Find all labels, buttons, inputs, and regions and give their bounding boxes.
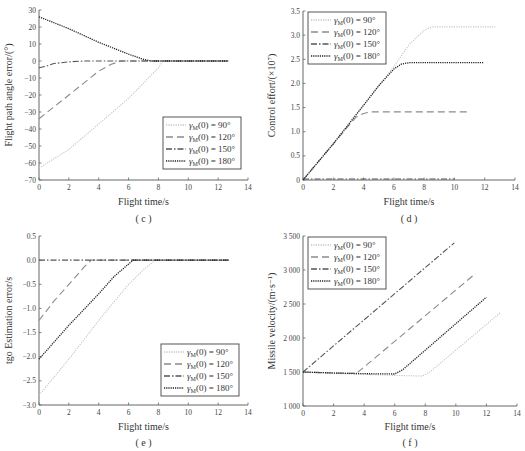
x-axis-title: Flight time/s: [384, 196, 435, 207]
y-tick-label: −2.0: [22, 352, 36, 361]
subfigure-caption: ( e ): [135, 437, 151, 449]
y-tick-label: 0: [32, 57, 36, 66]
x-tick-label: 12: [214, 183, 222, 192]
figure-canvas: 024681012143020100−10−20−30−40−50−60−70F…: [0, 0, 525, 451]
x-tick-label: 12: [483, 409, 491, 418]
chart-e: 024681012140.50.0−0.5−1.0−1.5−2.0−2.5−3.…: [3, 232, 252, 449]
x-tick-label: 8: [157, 408, 161, 417]
series-line: [39, 61, 229, 68]
y-tick-label: 3.0: [291, 31, 301, 40]
y-tick-label: 1.0: [291, 127, 301, 136]
x-tick-label: 12: [214, 408, 222, 417]
x-tick-label: 6: [127, 408, 131, 417]
x-tick-label: 12: [481, 183, 489, 192]
y-tick-label: 1.5: [291, 103, 301, 112]
y-tick-label: −0.5: [22, 280, 36, 289]
y-tick-label: −3.0: [22, 401, 36, 410]
y-tick-label: −1.5: [22, 328, 36, 337]
x-axis-title: Flight time/s: [118, 196, 169, 207]
x-tick-label: 14: [513, 409, 521, 418]
y-tick-label: 30: [29, 6, 37, 15]
x-tick-label: 8: [423, 409, 427, 418]
y-tick-label: 0: [296, 176, 300, 185]
subfigure-caption: ( f ): [403, 437, 418, 449]
y-tick-label: 2 000: [283, 334, 300, 343]
x-tick-label: 4: [362, 183, 366, 192]
x-tick-label: 10: [185, 183, 193, 192]
y-tick-label: 3 500: [283, 232, 300, 241]
y-tick-label: 1 500: [283, 368, 300, 377]
x-tick-label: 0: [37, 408, 41, 417]
x-tick-label: 0: [37, 183, 41, 192]
series-line: [39, 61, 229, 119]
x-tick-label: 14: [244, 183, 252, 192]
y-tick-label: −60: [24, 159, 36, 168]
y-tick-label: −2.5: [22, 376, 36, 385]
y-tick-label: 3.5: [291, 7, 301, 16]
x-axis-title: Flight time/s: [385, 421, 436, 432]
legend: γM(0) = 90°γM(0) = 120°γM(0) = 150°γM(0)…: [308, 237, 386, 289]
chart-c: 024681012143020100−10−20−30−40−50−60−70F…: [3, 6, 252, 225]
x-tick-label: 10: [452, 409, 460, 418]
legend: γM(0) = 90°γM(0) = 120°γM(0) = 150°γM(0)…: [163, 117, 241, 169]
series-line: [39, 260, 229, 320]
y-axis-title: Control effort/(×10⁷): [266, 54, 278, 138]
legend: γM(0) = 90°γM(0) = 120°γM(0) = 150°γM(0)…: [308, 12, 386, 64]
legend: γM(0) = 90°γM(0) = 120°γM(0) = 150°γM(0)…: [161, 344, 239, 396]
x-tick-label: 4: [362, 409, 366, 418]
x-tick-label: 6: [393, 409, 397, 418]
y-tick-label: 20: [29, 23, 37, 32]
x-tick-label: 2: [67, 183, 71, 192]
x-tick-label: 6: [127, 183, 131, 192]
x-tick-label: 2: [331, 183, 335, 192]
y-tick-label: −40: [24, 125, 36, 134]
x-tick-label: 4: [97, 408, 101, 417]
x-tick-label: 8: [157, 183, 161, 192]
series-line: [303, 63, 483, 180]
y-tick-label: 10: [29, 40, 37, 49]
y-tick-label: −70: [24, 176, 36, 185]
y-axis-title: tgo Estimation error/s: [3, 277, 14, 364]
x-tick-label: 14: [511, 183, 519, 192]
y-axis-title: Missile velocity/(m·s⁻¹): [266, 273, 278, 370]
y-tick-label: 0.5: [291, 151, 301, 160]
y-tick-label: 0.0: [27, 256, 37, 265]
y-tick-label: −1.0: [22, 304, 36, 313]
subfigure-caption: ( c ): [135, 213, 151, 225]
y-tick-label: −20: [24, 91, 36, 100]
subfigure-caption: ( d ): [401, 213, 418, 225]
y-tick-label: −30: [24, 108, 36, 117]
y-tick-label: 2 500: [283, 300, 300, 309]
y-tick-label: 2.0: [291, 79, 301, 88]
series-line: [303, 313, 500, 376]
series-line: [39, 17, 229, 61]
x-tick-label: 4: [97, 183, 101, 192]
y-tick-label: 2.5: [291, 55, 301, 64]
x-tick-label: 6: [392, 183, 396, 192]
y-tick-label: 3 000: [283, 266, 300, 275]
x-tick-label: 14: [244, 408, 252, 417]
y-tick-label: 1 000: [283, 402, 300, 411]
chart-f: 024681012141 0001 5002 0002 5003 0003 50…: [266, 232, 521, 449]
x-tick-label: 2: [332, 409, 336, 418]
x-axis-title: Flight time/s: [118, 421, 169, 432]
x-tick-label: 10: [451, 183, 459, 192]
chart-d: 0246810121400.51.01.52.02.53.03.5Flight …: [266, 7, 519, 225]
series-line: [303, 112, 470, 180]
series-line: [303, 297, 486, 374]
y-axis-title: Flight path angle error/(°): [3, 43, 15, 146]
x-tick-label: 2: [67, 408, 71, 417]
y-tick-label: 0.5: [27, 232, 37, 241]
x-tick-label: 0: [301, 409, 305, 418]
x-tick-label: 8: [422, 183, 426, 192]
y-tick-label: −10: [24, 74, 36, 83]
x-tick-label: 0: [301, 183, 305, 192]
x-tick-label: 10: [185, 408, 193, 417]
y-tick-label: −50: [24, 142, 36, 151]
